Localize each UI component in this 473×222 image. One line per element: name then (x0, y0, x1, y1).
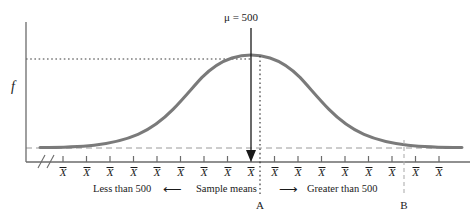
tick-label-xbar: X̄ (130, 166, 137, 178)
annotation-greater-than: Greater than 500 (307, 184, 378, 195)
overbar (271, 167, 278, 168)
tick-label-xbar: X̄ (224, 166, 231, 178)
tick-label-xbar: X̄ (177, 166, 184, 178)
overbar (107, 167, 114, 168)
overbar (412, 167, 419, 168)
tick-label-xbar: X̄ (389, 166, 396, 178)
overbar (436, 167, 443, 168)
point-a-label: A (256, 200, 264, 211)
tick-label-xbar: X̄ (412, 166, 419, 178)
sampling-distribution-figure: μ = 500 f X̄ X̄ X̄ X̄ X̄ X̄ X̄ X̄ X̄ X̄ … (0, 0, 473, 222)
overbar (318, 167, 325, 168)
right-arrow-icon: ⟶ (279, 182, 298, 198)
overbar (83, 167, 90, 168)
mu-arrow-head (246, 150, 256, 162)
overbar (177, 167, 184, 168)
overbar (365, 167, 372, 168)
tick-label-xbar: X̄ (60, 166, 67, 178)
tick-label-xbar: X̄ (248, 166, 255, 178)
tick-label-xbar: X̄ (436, 166, 443, 178)
tick-label-xbar: X̄ (295, 166, 302, 178)
annotation-less-than: Less than 500 (93, 184, 151, 195)
tick-label-xbar: X̄ (342, 166, 349, 178)
annotation-sample-means: Sample means (196, 184, 257, 195)
y-axis-label: f (11, 80, 15, 94)
tick-label-xbar: X̄ (83, 166, 90, 178)
tick-label-xbar: X̄ (318, 166, 325, 178)
overbar (224, 167, 231, 168)
overbar (60, 167, 67, 168)
overbar (130, 167, 137, 168)
mu-label: μ = 500 (224, 12, 258, 23)
overbar (295, 167, 302, 168)
overbar (248, 167, 255, 168)
left-arrow-icon: ⟵ (163, 182, 182, 198)
point-b-label: B (400, 200, 407, 211)
tick-label-xbar: X̄ (154, 166, 161, 178)
overbar (154, 167, 161, 168)
tick-label-xbar: X̄ (201, 166, 208, 178)
tick-label-xbar: X̄ (365, 166, 372, 178)
tick-label-xbar: X̄ (107, 166, 114, 178)
overbar (389, 167, 396, 168)
overbar (201, 167, 208, 168)
tick-label-xbar: X̄ (271, 166, 278, 178)
overbar (342, 167, 349, 168)
